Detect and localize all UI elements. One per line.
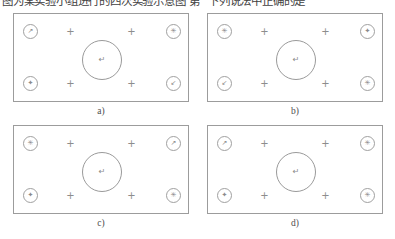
figure-panel-d: ↗ ✳ ✦ ✳ ↵ + + + + d) — [207, 125, 385, 237]
arrow-glyph-icon: ✳ — [167, 189, 180, 202]
arrow-glyph-icon: ✦ — [24, 77, 37, 90]
arrow-glyph-icon: ✦ — [24, 189, 37, 202]
arrow-glyph-icon: ✳ — [24, 137, 37, 150]
arrow-glyph-icon: ↙ — [167, 77, 180, 90]
panel-a-caption: a) — [13, 106, 189, 116]
panel-b-marker-2: + — [321, 27, 330, 36]
figure-panel-b: ✳ ✦ ↙ ✳ ↵ + + + + b) — [207, 13, 385, 125]
panel-d-frame: ↗ ✳ ✦ ✳ ↵ + + + + — [207, 125, 383, 214]
panel-b-node-bottom-right: ✳ — [360, 76, 375, 91]
arrow-glyph-icon: ✦ — [361, 25, 374, 38]
arrow-glyph-icon: ↗ — [24, 25, 37, 38]
panel-b-node-bottom-left: ↙ — [217, 76, 232, 91]
panel-a-marker-2: + — [127, 27, 136, 36]
panel-c-marker-4: + — [127, 191, 136, 200]
panel-a-marker-1: + — [66, 27, 75, 36]
panel-b-marker-3: + — [260, 79, 269, 88]
panel-a-node-top-right: ✳ — [166, 24, 181, 39]
panel-d-caption: d) — [207, 218, 383, 228]
figure-panel-a: ↗ ✳ ✦ ↙ ↵ + + + + a) — [13, 13, 191, 125]
figure-panel-grid: ↗ ✳ ✦ ↙ ↵ + + + + a) ✳ — [0, 9, 395, 239]
panel-b-marker-1: + — [260, 27, 269, 36]
panel-d-node-bottom-left: ✦ — [217, 188, 232, 203]
panel-a-node-top-left: ↗ — [23, 24, 38, 39]
arrow-glyph-icon: ↗ — [167, 137, 180, 150]
panel-b-center-node: ↵ — [276, 40, 316, 80]
panel-b-caption: b) — [207, 106, 383, 116]
panel-d-marker-3: + — [260, 191, 269, 200]
panel-b-node-top-right: ✦ — [360, 24, 375, 39]
arrow-glyph-icon: ✳ — [361, 137, 374, 150]
arrow-glyph-icon: ✳ — [361, 77, 374, 90]
center-glyph-icon: ↵ — [83, 153, 121, 191]
panel-c-marker-1: + — [66, 139, 75, 148]
panel-a-node-bottom-left: ✦ — [23, 76, 38, 91]
panel-c-node-bottom-left: ✦ — [23, 188, 38, 203]
panel-c-center-node: ↵ — [82, 152, 122, 192]
panel-a-node-bottom-right: ↙ — [166, 76, 181, 91]
panel-d-center-node: ↵ — [276, 152, 316, 192]
panel-a-frame: ↗ ✳ ✦ ↙ ↵ + + + + — [13, 13, 189, 102]
panel-c-marker-3: + — [66, 191, 75, 200]
panel-b-node-top-left: ✳ — [217, 24, 232, 39]
panel-d-node-bottom-right: ✳ — [360, 188, 375, 203]
panel-b-frame: ✳ ✦ ↙ ✳ ↵ + + + + — [207, 13, 383, 102]
panel-c-marker-2: + — [127, 139, 136, 148]
center-glyph-icon: ↵ — [277, 41, 315, 79]
panel-c-node-top-left: ✳ — [23, 136, 38, 151]
panel-c-node-bottom-right: ✳ — [166, 188, 181, 203]
panel-c-frame: ✳ ↗ ✦ ✳ ↵ + + + + — [13, 125, 189, 214]
panel-d-marker-4: + — [321, 191, 330, 200]
arrow-glyph-icon: ✳ — [218, 25, 231, 38]
heading-text-left: 图为某实验小组进行的四次实验示意图 第 — [0, 0, 200, 8]
panel-b-marker-4: + — [321, 79, 330, 88]
panel-a-marker-3: + — [66, 79, 75, 88]
panel-a-marker-4: + — [127, 79, 136, 88]
arrow-glyph-icon: ↙ — [218, 77, 231, 90]
panel-d-marker-2: + — [321, 139, 330, 148]
panel-c-node-top-right: ↗ — [166, 136, 181, 151]
panel-c-caption: c) — [13, 218, 189, 228]
center-glyph-icon: ↵ — [277, 153, 315, 191]
panel-d-marker-1: + — [260, 139, 269, 148]
panel-a-center-node: ↵ — [82, 40, 122, 80]
panel-d-node-top-right: ✳ — [360, 136, 375, 151]
arrow-glyph-icon: ✦ — [218, 189, 231, 202]
arrow-glyph-icon: ✳ — [167, 25, 180, 38]
cropped-heading-strip: 图为某实验小组进行的四次实验示意图 第 下列说法中正确的是 — [0, 0, 395, 9]
figure-panel-c: ✳ ↗ ✦ ✳ ↵ + + + + c) — [13, 125, 191, 237]
panel-d-node-top-left: ↗ — [217, 136, 232, 151]
arrow-glyph-icon: ✳ — [361, 189, 374, 202]
arrow-glyph-icon: ↗ — [218, 137, 231, 150]
heading-text-right: 下列说法中正确的是 — [208, 0, 305, 9]
center-glyph-icon: ↵ — [83, 41, 121, 79]
